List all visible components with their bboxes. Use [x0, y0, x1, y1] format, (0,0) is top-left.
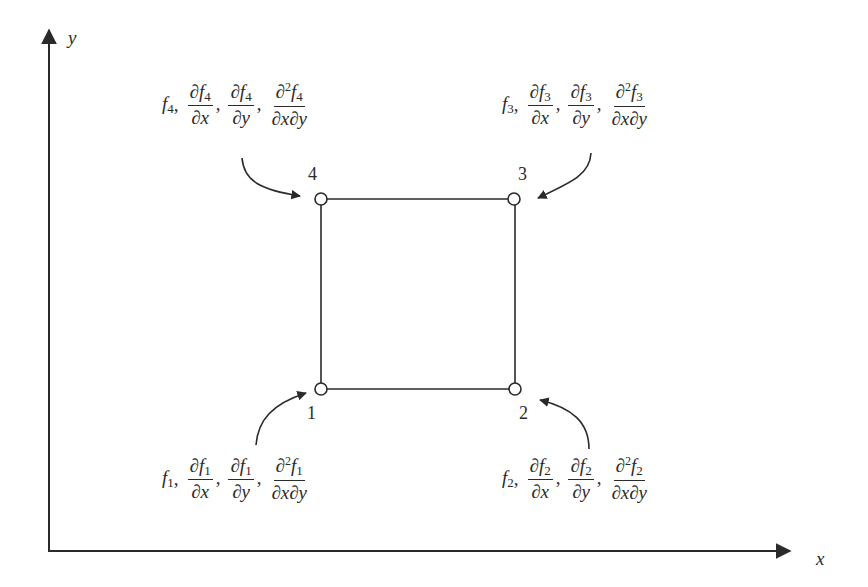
f-value: f2: [502, 467, 514, 491]
df-dy: ∂f2∂y: [568, 456, 593, 503]
arrow-to-node-4: [242, 158, 300, 196]
square-element: [315, 193, 521, 395]
node-4-circle: [315, 193, 327, 205]
d2f-dxdy: ∂2f2∂x∂y: [609, 455, 649, 503]
df-dy: ∂f4∂y: [228, 82, 253, 129]
d2f-dxdy: ∂2f3∂x∂y: [609, 81, 649, 129]
d2f-dxdy: ∂2f1∂x∂y: [269, 455, 309, 503]
axes: [48, 30, 790, 551]
node-2-circle: [509, 383, 521, 395]
node-3-label: 3: [518, 165, 527, 183]
node-1-circle: [315, 383, 327, 395]
df-dx: ∂f4∂x: [188, 82, 213, 129]
arrow-to-node-1: [256, 393, 306, 445]
pointer-arrows: [242, 153, 591, 449]
x-axis-label: x: [816, 549, 824, 568]
node-2-label: 2: [519, 404, 528, 422]
node-3-dofs: f3, ∂f3∂x, ∂f3∂y, ∂2f3∂x∂y: [502, 81, 651, 129]
df-dx: ∂f3∂x: [528, 82, 553, 129]
node-4-dofs: f4, ∂f4∂x, ∂f4∂y, ∂2f4∂x∂y: [162, 81, 311, 129]
y-axis-label: y: [68, 28, 76, 47]
f-value: f1: [162, 467, 174, 491]
node-1-dofs: f1, ∂f1∂x, ∂f1∂y, ∂2f1∂x∂y: [162, 455, 311, 503]
arrow-to-node-2: [540, 400, 589, 449]
d2f-dxdy: ∂2f4∂x∂y: [269, 81, 309, 129]
f-value: f4: [162, 93, 174, 117]
df-dx: ∂f2∂x: [528, 456, 553, 503]
df-dx: ∂f1∂x: [188, 456, 213, 503]
df-dy: ∂f1∂y: [228, 456, 253, 503]
f-value: f3: [502, 93, 514, 117]
node-3-circle: [508, 193, 520, 205]
node-4-label: 4: [308, 165, 317, 183]
df-dy: ∂f3∂y: [568, 82, 593, 129]
node-2-dofs: f2, ∂f2∂x, ∂f2∂y, ∂2f2∂x∂y: [502, 455, 651, 503]
node-1-label: 1: [307, 404, 316, 422]
arrow-to-node-3: [538, 153, 591, 198]
diagram-canvas: [0, 0, 868, 587]
